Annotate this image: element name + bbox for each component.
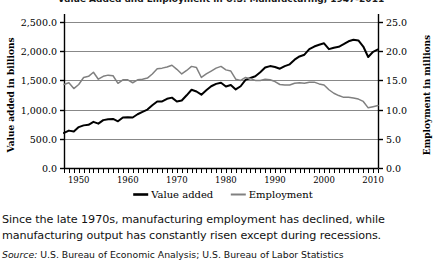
chart-figure: 0.0500.01,000.01,500.02,000.02,500.00.05… — [0, 8, 442, 208]
x-axis-tick-label: 2000 — [313, 175, 335, 185]
series-line-employment — [64, 65, 378, 108]
series-line-value-added — [64, 40, 378, 133]
legend-label-value-added: Value added — [150, 189, 214, 200]
right-axis-tick-label: 25.0 — [386, 17, 407, 28]
x-axis-tick-label: 1960 — [117, 175, 139, 185]
left-axis-tick-label: 1,500.0 — [21, 75, 57, 86]
x-axis-tick-label: 2010 — [362, 175, 384, 185]
caption-text: Since the late 1970s, manufacturing empl… — [2, 212, 440, 243]
left-axis-tick-label: 500.0 — [30, 134, 57, 145]
left-axis-tick-label: 2,500.0 — [21, 17, 57, 28]
right-axis-tick-label: 15.0 — [386, 75, 407, 86]
caption-source: Source: U.S. Bureau of Economic Analysis… — [2, 249, 440, 261]
figure-page: Value Added and Employment in U.S. Manuf… — [0, 0, 442, 270]
left-axis-tick-label: 0.0 — [42, 163, 57, 174]
chart-title: Value Added and Employment in U.S. Manuf… — [0, 0, 442, 5]
left-axis-tick-label: 2,000.0 — [21, 46, 57, 57]
x-axis-tick-label: 1970 — [166, 175, 188, 185]
dual-axis-line-chart: 0.0500.01,000.01,500.02,000.02,500.00.05… — [0, 8, 442, 208]
right-axis-tick-label: 20.0 — [386, 46, 407, 57]
x-axis-tick-label: 1980 — [215, 175, 237, 185]
right-axis-tick-label: 10.0 — [386, 105, 407, 116]
right-axis-tick-label: 5.0 — [386, 134, 401, 145]
chart-title-strip: Value Added and Employment in U.S. Manuf… — [0, 0, 442, 6]
source-value: U.S. Bureau of Economic Analysis; U.S. B… — [37, 249, 343, 260]
source-label: Source: — [2, 249, 37, 260]
legend-label-employment: Employment — [249, 189, 313, 200]
left-axis-title: Value added in billions — [6, 37, 16, 153]
x-axis-tick-label: 1990 — [264, 175, 286, 185]
right-axis-title: Employment in millions — [422, 35, 432, 155]
left-axis-tick-label: 1,000.0 — [21, 105, 57, 116]
right-axis-tick-label: 0.0 — [386, 163, 401, 174]
x-axis-tick-label: 1950 — [68, 175, 90, 185]
caption-block: Since the late 1970s, manufacturing empl… — [2, 212, 440, 261]
